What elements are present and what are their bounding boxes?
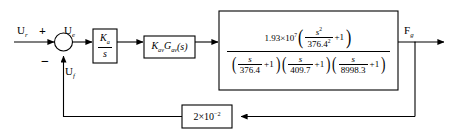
summing-junction-minus-sign: − [41,55,49,69]
feedback-block-content: 2×10−2 [182,105,232,128]
valve-block-content: KavGav(s) [144,36,195,58]
close-paren-icon: ) [326,56,330,72]
plant-denominator: (s376.4+1)(s409.7+1)(s8998.3+1) [227,51,391,75]
wire-feedback-return [64,56,183,117]
plant-den-2-den: 409.7 [288,64,312,75]
plant-denominator-term-1: (s376.4+1) [231,55,281,75]
plant-numerator-inner-num: s2 [305,27,332,37]
open-paren-icon: ( [282,56,286,72]
summing-junction-plus-sign: + [39,25,46,37]
close-paren-icon: ) [346,28,351,47]
close-paren-icon: ) [381,56,385,72]
plant-block-content: 1.93×107(s2376.42+1) (s376.4+1)(s409.7+1… [219,11,398,90]
plant-den-3-num: s [339,55,368,64]
plant-numerator-plus-one: +1 [334,33,346,42]
plant-den-3-plus-one: +1 [369,60,381,69]
label-output-signal: Fg [404,25,414,39]
integrator-block-content: Ka s [93,29,117,63]
label-input-signal: Ur [17,25,28,39]
plant-denominator-term-3: (s8998.3+1) [331,55,386,75]
plant-den-3-fraction: s8998.3 [339,55,368,75]
valve-g-term: Gav [164,41,177,53]
plant-den-1-plus-one: +1 [263,60,275,69]
integrator-numerator: Ka [98,33,112,46]
valve-argument: (s) [177,42,188,52]
plant-coefficient: 1.93×107 [265,33,298,43]
plant-den-1-fraction: s376.4 [238,55,262,75]
plant-den-1-den: 376.4 [238,64,262,75]
plant-den-3-den: 8998.3 [339,64,368,75]
plant-numerator: 1.93×107(s2376.42+1) [227,27,391,51]
close-paren-icon: ) [276,56,280,72]
label-error-signal: Ue [64,25,75,39]
plant-numerator-inner-den: 376.42 [305,37,332,49]
plant-denominator-term-2: (s409.7+1) [281,55,331,75]
open-paren-icon: ( [231,56,235,72]
plant-den-2-plus-one: +1 [314,60,326,69]
integrator-denominator: s [98,47,112,59]
block-diagram-canvas: Ur Ue Uf Fg + − Ka s KavGav(s) 1.93×107(… [0,0,451,137]
valve-k-term: Kav [151,41,164,53]
feedback-gain-value: 2×10−2 [193,111,220,122]
plant-numerator-inner-fraction: s2376.42 [305,27,332,49]
plant-den-1-num: s [238,55,262,64]
label-feedback-signal: Uf [65,66,75,80]
open-paren-icon: ( [332,56,336,72]
open-paren-icon: ( [298,28,303,47]
plant-den-2-num: s [288,55,312,64]
plant-den-2-fraction: s409.7 [288,55,312,75]
